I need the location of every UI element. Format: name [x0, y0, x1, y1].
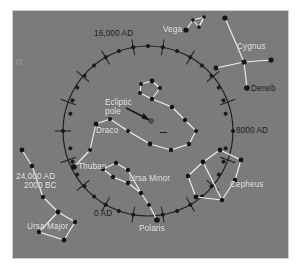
star-draco [148, 142, 153, 147]
star-cepheus [220, 198, 224, 202]
star-draco [170, 105, 174, 109]
star-draco [126, 129, 130, 133]
star-ursa-major [73, 220, 77, 224]
constellation-lyra [186, 17, 204, 30]
label-ecliptic-pole-line2: pole [105, 107, 121, 116]
label-epoch-2000bc: 2000 BC [24, 181, 57, 190]
star-ursa-minor [111, 175, 115, 179]
star-draco [88, 148, 92, 152]
star-cepheus [186, 174, 190, 178]
star-polaris [154, 217, 160, 223]
star-draco [108, 117, 112, 121]
star-ursa-major [56, 210, 61, 215]
precession-tick-marks [55, 40, 235, 223]
label-ecliptic-pole-line1: Ecliptic [105, 98, 132, 107]
star-ursa-minor [114, 161, 118, 165]
star-draco [139, 82, 143, 86]
star-ursa-major [20, 148, 25, 153]
ecliptic-pole-arrow [126, 108, 150, 121]
star-cepheus [218, 148, 223, 153]
label-vega: Vega [163, 25, 182, 34]
label-polaris: Polaris [139, 224, 165, 233]
label-ursa-major: Ursa Major [27, 222, 68, 231]
ecliptic-pole-marker [149, 119, 153, 123]
star-lyra [197, 25, 201, 29]
label-deneb: Deneb [251, 84, 276, 93]
star-draco [158, 86, 162, 90]
label-epoch-8000ad: 8000 AD [236, 126, 268, 135]
label-draco: Draco [96, 126, 118, 135]
star-ursa-major [41, 195, 45, 199]
star-draco [150, 97, 154, 101]
label-epoch-16000ad: 16,000 AD [94, 29, 133, 38]
star-cepheus [201, 160, 206, 165]
constellation-draco [74, 81, 196, 167]
star-draco [183, 118, 187, 122]
star-draco [138, 91, 142, 95]
star-ursa-minor [147, 203, 151, 207]
star-draco [194, 129, 198, 133]
star-thuban [71, 164, 77, 170]
label-cygnus: Cygnus [237, 42, 265, 51]
label-ursa-minor: Ursa Minor [129, 174, 170, 183]
star-cepheus [194, 195, 199, 200]
label-epoch-0ad: 0 AD [94, 209, 112, 218]
star-ursa-major [30, 164, 34, 168]
star-vega [183, 27, 188, 32]
star-deneb [244, 85, 250, 91]
star-draco [187, 142, 191, 146]
label-cepheus: Cepheus [230, 180, 263, 189]
star-draco [150, 79, 155, 84]
precession-diagram-figure: 16,000 AD 8000 AD 0 AD 24,000 AD 2000 BC… [0, 0, 301, 275]
star-draco [169, 148, 173, 152]
star-cygnus [222, 15, 227, 20]
star-cygnus [268, 57, 273, 62]
constellation-cygnus [216, 18, 271, 88]
star-ursa-major [62, 238, 67, 243]
star-cygnus [214, 66, 219, 71]
precession-circle [63, 46, 233, 216]
star-ursa-minor [139, 191, 143, 195]
label-thuban: Thuban [78, 162, 106, 171]
star-lyra [202, 15, 206, 19]
star-lyra [191, 18, 195, 22]
faint-star-marker [17, 60, 22, 65]
star-ursa-minor [126, 168, 130, 172]
star-cepheus [239, 158, 244, 163]
label-epoch-24000ad: 24,000 AD [16, 172, 55, 181]
constellation-cepheus [188, 150, 241, 200]
star-cygnus [241, 59, 246, 64]
